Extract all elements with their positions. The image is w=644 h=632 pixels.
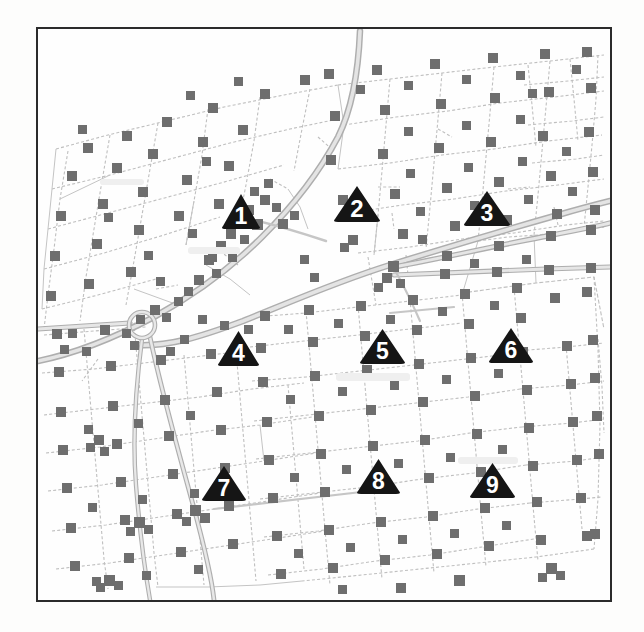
triangle-marker-icon: 9	[468, 461, 517, 498]
site-marker-8[interactable]: 8	[355, 457, 402, 494]
map-frame-border: 123456789	[36, 27, 612, 602]
triangle-marker-icon: 2	[332, 184, 382, 222]
site-marker-1[interactable]: 1	[220, 192, 262, 229]
site-marker-4[interactable]: 4	[216, 329, 261, 366]
site-marker-label: 8	[372, 467, 385, 493]
site-marker-7[interactable]: 7	[200, 464, 248, 501]
site-marker-5[interactable]: 5	[358, 327, 407, 364]
site-marker-label: 9	[486, 471, 499, 497]
site-marker-label: 5	[376, 337, 389, 363]
site-marker-2[interactable]: 2	[332, 184, 382, 222]
triangle-marker-icon: 7	[200, 464, 248, 501]
triangle-marker-icon: 6	[487, 326, 535, 363]
triangle-marker-icon: 5	[358, 327, 407, 364]
triangle-marker-icon: 4	[216, 329, 261, 366]
site-marker-label: 2	[350, 195, 363, 222]
site-marker-9[interactable]: 9	[468, 461, 517, 498]
map-drawing-canvas	[38, 29, 610, 600]
map-figure: 123456789	[0, 0, 644, 632]
triangle-marker-icon: 1	[220, 192, 262, 229]
site-marker-6[interactable]: 6	[487, 326, 535, 363]
site-marker-label: 1	[235, 202, 248, 228]
site-marker-3[interactable]: 3	[462, 189, 512, 226]
site-marker-label: 7	[218, 474, 231, 500]
site-marker-label: 6	[505, 336, 518, 362]
triangle-marker-icon: 8	[355, 457, 402, 494]
site-marker-label: 4	[232, 339, 245, 365]
triangle-marker-icon: 3	[462, 189, 512, 226]
site-marker-label: 3	[481, 199, 494, 225]
